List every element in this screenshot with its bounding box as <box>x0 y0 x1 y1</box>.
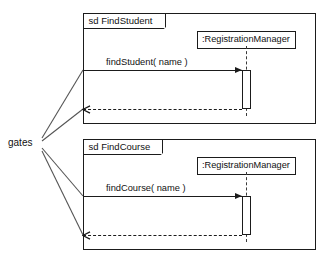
return-arrowhead-find-student <box>82 105 91 114</box>
gates-label: gates <box>8 137 32 148</box>
gate-findcourse-return <box>42 151 83 235</box>
return-message-line-find-student <box>83 109 242 110</box>
uml-sequence-diagram: gates sd FindStudent :RegistrationManage… <box>0 0 329 264</box>
call-message-label-find-course: findCourse( name ) <box>106 183 186 193</box>
call-message-line-find-course <box>83 196 242 197</box>
call-message-line-find-student <box>83 70 242 71</box>
call-message-label-find-student: findStudent( name ) <box>106 57 188 67</box>
return-arrowhead-find-course <box>82 231 91 240</box>
return-message-line-find-course <box>83 235 242 236</box>
gate-findstudent-return <box>42 109 83 141</box>
activation-bar-2 <box>242 196 251 235</box>
frame-tab-find-student: sd FindStudent <box>84 14 166 29</box>
frame-tab-find-course: sd FindCourse <box>84 140 163 155</box>
sequence-frame-find-course[interactable]: sd FindCourse <box>83 139 316 250</box>
call-arrowhead-find-course <box>235 193 242 199</box>
gate-findstudent-call <box>42 70 83 138</box>
sequence-frame-find-student[interactable]: sd FindStudent <box>83 13 316 124</box>
gate-findcourse-call <box>42 148 83 196</box>
call-arrowhead-find-student <box>235 67 242 73</box>
activation-bar-1 <box>242 70 251 109</box>
